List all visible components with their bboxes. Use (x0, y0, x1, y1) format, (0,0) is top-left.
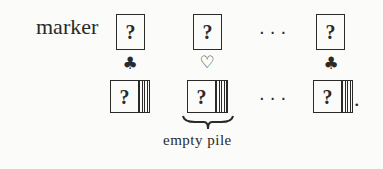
question-mark: ? (126, 22, 136, 42)
club-icon: ♣ (316, 55, 346, 72)
top-ellipsis: ··· (259, 22, 291, 43)
underbrace-icon (181, 115, 235, 131)
terminal-period: . (354, 86, 360, 112)
heart-icon: ♡ (192, 54, 222, 71)
card-pile-3: ? (313, 80, 353, 113)
marker-card-2: ? (193, 14, 222, 50)
marker-card-1: ? (116, 14, 145, 50)
question-mark: ? (323, 87, 333, 107)
card-pile-2-empty: ? (187, 80, 228, 113)
question-mark: ? (197, 87, 207, 107)
question-mark: ? (326, 22, 336, 42)
marker-card-3: ? (316, 14, 345, 50)
stacked-card-edges (139, 81, 149, 112)
marker-label: marker (36, 14, 98, 40)
question-mark: ? (120, 87, 130, 107)
stacked-card-edges (216, 81, 227, 112)
empty-pile-caption: empty pile (163, 132, 232, 149)
stacked-card-edges (342, 81, 352, 112)
question-mark: ? (203, 22, 213, 42)
club-icon: ♣ (115, 55, 145, 72)
bottom-ellipsis: ··· (259, 88, 291, 109)
card-pile-1: ? (110, 80, 150, 113)
